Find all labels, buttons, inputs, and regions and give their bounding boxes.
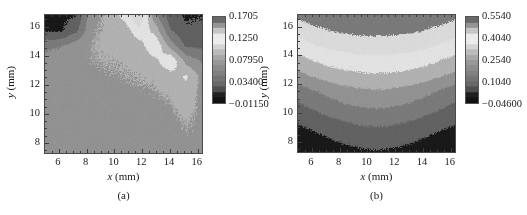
panel-a: 810121416 6810121416 x (mm) y (mm) 0.170… <box>0 0 263 215</box>
x-minor-tick-mark-top <box>135 15 136 17</box>
y-axis-unit-b: (mm) <box>257 66 269 90</box>
y-axis-tick-labels-a: 810121416 <box>20 14 40 154</box>
y-minor-tick-mark <box>45 128 47 129</box>
x-tick-label: 12 <box>136 156 147 168</box>
x-minor-tick-mark-top <box>409 15 410 17</box>
y-tick-label: 12 <box>30 78 41 90</box>
y-minor-tick-mark <box>45 136 47 137</box>
x-minor-tick-mark-top <box>423 15 424 17</box>
x-axis-symbol-b: x <box>360 170 365 182</box>
x-minor-tick-mark <box>312 150 313 152</box>
y-minor-tick-mark <box>298 135 300 136</box>
colorbar-tick-labels-b: 0.55400.40400.25400.1040−0.04600 <box>482 16 527 104</box>
y-minor-tick-mark <box>298 77 300 78</box>
y-minor-tick-mark <box>298 34 300 35</box>
x-axis-tick-labels-b: 6810121416 <box>297 156 456 170</box>
x-minor-tick-mark-top <box>326 15 327 17</box>
x-minor-tick-mark <box>66 151 67 153</box>
x-minor-tick-mark <box>184 151 185 153</box>
y-minor-tick-mark <box>45 56 47 57</box>
x-minor-tick-mark <box>451 150 452 152</box>
x-minor-tick-mark-top <box>80 15 81 17</box>
x-axis-symbol-a: x <box>107 170 112 182</box>
y-minor-tick-mark <box>45 19 47 20</box>
contour-plot-b <box>297 14 456 153</box>
x-minor-tick-mark-top <box>142 15 143 17</box>
panel-caption-a: (a) <box>44 189 203 201</box>
x-minor-tick-mark <box>367 150 368 152</box>
x-minor-tick-mark <box>101 151 102 153</box>
y-minor-tick-mark <box>298 91 300 92</box>
y-minor-tick-mark <box>298 99 300 100</box>
x-minor-tick-mark-top <box>198 15 199 17</box>
x-minor-tick-mark-top <box>416 15 417 17</box>
x-minor-tick-mark <box>121 151 122 153</box>
y-tick-label: 10 <box>283 106 294 118</box>
y-minor-tick-mark <box>298 142 300 143</box>
y-minor-tick-mark <box>45 107 47 108</box>
y-minor-tick-mark <box>45 41 47 42</box>
y-minor-tick-mark <box>298 19 300 20</box>
x-minor-tick-mark-top <box>402 15 403 17</box>
x-tick-label: 16 <box>445 156 456 168</box>
x-minor-tick-mark-top <box>319 15 320 17</box>
colorbar-tick-label: −0.04600 <box>482 98 522 110</box>
colorbar-gradient-b <box>465 16 479 104</box>
y-minor-tick-mark <box>45 34 47 35</box>
x-minor-tick-mark <box>354 150 355 152</box>
y-axis-symbol-b: y <box>257 93 269 98</box>
x-minor-tick-mark <box>156 151 157 153</box>
x-minor-tick-mark-top <box>114 15 115 17</box>
y-minor-tick-mark <box>298 70 300 71</box>
x-minor-tick-mark <box>52 151 53 153</box>
y-minor-tick-mark <box>45 143 47 144</box>
panel-caption-b: (b) <box>297 189 456 201</box>
x-minor-tick-mark-top <box>437 15 438 17</box>
x-axis-title-b: x (mm) <box>297 170 456 182</box>
y-tick-label: 8 <box>35 136 40 148</box>
y-minor-tick-mark <box>45 48 47 49</box>
x-minor-tick-mark <box>347 150 348 152</box>
x-minor-tick-mark-top <box>52 15 53 17</box>
x-minor-tick-mark <box>326 150 327 152</box>
x-minor-tick-mark <box>149 151 150 153</box>
x-minor-tick-mark-top <box>381 15 382 17</box>
x-minor-tick-mark <box>416 150 417 152</box>
x-minor-tick-mark <box>135 151 136 153</box>
x-axis-unit-a: (mm) <box>115 170 139 182</box>
x-tick-label: 12 <box>389 156 400 168</box>
x-minor-tick-mark <box>305 150 306 152</box>
x-minor-tick-mark-top <box>354 15 355 17</box>
x-minor-tick-mark-top <box>94 15 95 17</box>
x-minor-tick-mark <box>191 151 192 153</box>
contour-canvas-b <box>298 15 455 152</box>
x-tick-label: 8 <box>336 156 341 168</box>
x-minor-tick-mark <box>142 151 143 153</box>
y-minor-tick-mark <box>45 121 47 122</box>
x-minor-tick-mark <box>340 150 341 152</box>
y-minor-tick-mark <box>45 27 47 28</box>
y-minor-tick-mark <box>45 92 47 93</box>
x-minor-tick-mark-top <box>444 15 445 17</box>
contour-plot-a <box>44 14 203 154</box>
contour-canvas-a <box>45 15 202 153</box>
x-minor-tick-mark-top <box>101 15 102 17</box>
x-minor-tick-mark <box>423 150 424 152</box>
y-minor-tick-mark <box>298 27 300 28</box>
x-minor-tick-mark-top <box>170 15 171 17</box>
x-minor-tick-mark-top <box>149 15 150 17</box>
y-minor-tick-mark <box>45 77 47 78</box>
colorbar-canvas-a <box>213 17 225 103</box>
y-minor-tick-mark <box>45 99 47 100</box>
y-axis-symbol-a: y <box>4 93 16 98</box>
y-minor-tick-mark <box>45 70 47 71</box>
y-axis-title-b: y (mm) <box>257 52 269 112</box>
y-tick-label: 16 <box>283 20 294 32</box>
x-minor-tick-mark <box>333 150 334 152</box>
y-minor-tick-mark <box>45 63 47 64</box>
x-minor-tick-mark-top <box>451 15 452 17</box>
x-minor-tick-mark-top <box>163 15 164 17</box>
x-tick-label: 6 <box>55 156 60 168</box>
y-axis-title-a: y (mm) <box>4 52 16 112</box>
y-minor-tick-mark <box>298 127 300 128</box>
